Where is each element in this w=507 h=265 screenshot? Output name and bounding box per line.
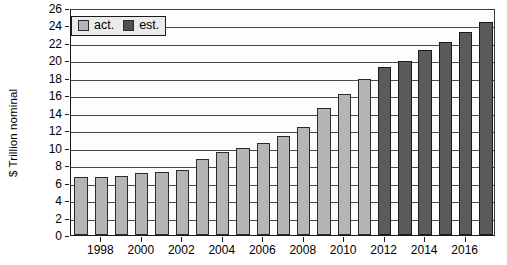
bar-2001 [155,172,168,235]
bar-2000 [135,173,148,235]
bar-2016 [459,32,472,235]
bar-2010 [338,94,351,235]
x-axis-tick-mark [384,237,385,242]
x-axis-tick-label: 2006 [242,244,282,256]
y-axis-tick-mark [65,131,69,132]
y-axis-tick-label: 4 [36,195,62,207]
x-axis-tick-label: 2010 [323,244,363,256]
x-axis-tick-mark [303,237,304,242]
x-axis-tick-mark [424,237,425,242]
y-axis-tick-label: 0 [36,230,62,242]
plot-area [70,9,495,236]
bar-1999 [115,176,128,235]
legend-item-est: est. [123,19,159,32]
x-axis-tick-label: 2000 [121,244,161,256]
legend-label-est: est. [139,19,159,32]
y-axis-tick-label: 26 [36,3,62,15]
bar-2017 [479,22,492,235]
x-axis-tick-mark [181,237,182,242]
bar-1997 [74,177,87,235]
y-axis-tick-mark [65,114,69,115]
bar-2008 [297,127,310,235]
bar-2009 [317,108,330,235]
x-axis-tick-mark [222,237,223,242]
y-axis-tick-mark [65,236,69,237]
x-axis-tick-mark [262,237,263,242]
y-axis-tick-mark [65,96,69,97]
y-axis-tick-label: 24 [36,20,62,32]
y-axis-tick-label: 6 [36,178,62,190]
bar-2004 [216,152,229,235]
bar-2014 [418,50,431,235]
bar-2013 [398,61,411,235]
y-axis-tick-label: 22 [36,38,62,50]
y-axis-title-text: $ Trillion nominal [7,88,19,176]
legend-swatch-act-icon [78,20,89,31]
y-axis-tick-mark [65,79,69,80]
y-axis-tick-mark [65,219,69,220]
y-axis-tick-label: 8 [36,160,62,172]
bar-2015 [439,42,452,235]
legend: act. est. [71,16,166,36]
bar-2012 [378,67,391,235]
bar-2011 [358,79,371,235]
bar-2002 [176,170,189,235]
y-axis-tick-mark [65,149,69,150]
x-axis-tick-mark [343,237,344,242]
bar-2007 [277,136,290,235]
y-axis-tick-mark [65,201,69,202]
y-axis-tick-mark [65,184,69,185]
x-axis-tick-label: 2002 [161,244,201,256]
legend-item-act: act. [78,19,114,32]
bar-2003 [196,159,209,235]
legend-swatch-est-icon [123,20,134,31]
y-axis-tick-label: 14 [36,108,62,120]
x-axis-tick-label: 2004 [202,244,242,256]
x-axis-tick-mark [141,237,142,242]
x-axis-tick-label: 2012 [364,244,404,256]
y-axis-tick-label: 12 [36,125,62,137]
bar-2005 [236,148,249,235]
y-axis-tick-label: 10 [36,143,62,155]
y-axis-tick-label: 16 [36,90,62,102]
y-axis-tick-mark [65,166,69,167]
y-axis-tick-mark [65,44,69,45]
x-axis-tick-mark [465,237,466,242]
bar-2006 [257,143,270,235]
y-axis-tick-label: 2 [36,213,62,225]
y-axis-tick-label: 20 [36,55,62,67]
x-axis-tick-mark [100,237,101,242]
y-axis-tick-mark [65,26,69,27]
y-axis-title: $ Trillion nominal [2,0,24,265]
y-axis-tick-mark [65,61,69,62]
x-axis-tick-label: 1998 [80,244,120,256]
bar-1998 [95,177,108,235]
y-axis-tick-mark [65,9,69,10]
x-axis-tick-label: 2016 [445,244,485,256]
y-axis-tick-label: 18 [36,73,62,85]
bar-series-group [71,10,494,235]
bar-chart: $ Trillion nominal 024681012141618202224… [0,0,507,265]
legend-label-act: act. [94,19,114,32]
x-axis-tick-label: 2014 [404,244,444,256]
x-axis-tick-label: 2008 [283,244,323,256]
